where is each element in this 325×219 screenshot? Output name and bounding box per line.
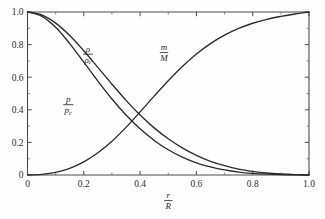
- x-tick-label: 0.6: [190, 179, 202, 189]
- x-tick-label: 0.8: [247, 179, 259, 189]
- y-tick-label: 0.6: [12, 73, 24, 83]
- x-tick-label: 0.4: [134, 179, 146, 189]
- series-label-m-over-M-numerator: m: [161, 42, 168, 52]
- y-tick-label: 1.0: [12, 7, 24, 17]
- x-tick-label: 0.2: [78, 179, 90, 189]
- stellar-structure-chart-figure: 00.20.40.60.81.0 00.20.40.60.81.0 ρρcppc…: [0, 0, 325, 219]
- y-tick-label: 0.4: [12, 105, 24, 115]
- y-tick-label: 0: [19, 170, 24, 180]
- plot-svg: 00.20.40.60.81.0 00.20.40.60.81.0 ρρcppc…: [0, 0, 325, 219]
- x-axis-label-fraction-numerator: r: [166, 190, 170, 200]
- y-tick-label: 0.8: [12, 40, 24, 50]
- y-tick-label: 0.2: [12, 138, 24, 148]
- chart-background: [0, 0, 325, 219]
- series-label-p-over-p-c-numerator: p: [65, 94, 71, 104]
- series-label-rho-over-rho-c-numerator: ρ: [85, 44, 91, 54]
- x-tick-label: 0: [25, 179, 30, 189]
- x-tick-label: 1.0: [303, 179, 315, 189]
- series-label-m-over-M: mM: [159, 42, 168, 63]
- x-axis-label-fraction-denominator: R: [165, 201, 172, 211]
- series-label-m-over-M-denominator: M: [159, 53, 168, 63]
